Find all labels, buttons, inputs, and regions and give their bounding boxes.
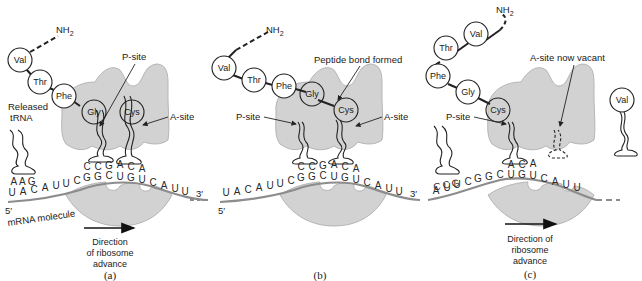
svg-text:U: U: [352, 174, 359, 185]
panel-b: UACA UUCG GCUG UCAU U CCG ACA NH2 Val Th…: [212, 24, 420, 281]
svg-text:U: U: [116, 171, 123, 182]
svg-text:U: U: [222, 187, 229, 198]
svg-text:G: G: [127, 172, 135, 183]
svg-text:A: A: [530, 158, 537, 169]
svg-text:G: G: [319, 160, 327, 171]
svg-text:U: U: [171, 183, 178, 194]
svg-text:A: A: [139, 163, 146, 174]
svg-text:Cys: Cys: [338, 105, 354, 115]
five-prime-label: 5′: [5, 205, 12, 216]
svg-text:C: C: [297, 161, 304, 172]
a-site-vacant-label: A-site now vacant: [530, 52, 605, 63]
svg-text:U: U: [62, 178, 69, 189]
panel-a: UACAUUCGGCUGUCAUU UACA UUCG GCUG UCAU U …: [5, 24, 208, 281]
svg-text:Val: Val: [616, 95, 628, 105]
svg-text:of ribosome: of ribosome: [86, 248, 133, 258]
svg-text:C: C: [308, 161, 315, 172]
svg-text:U: U: [573, 182, 580, 193]
svg-text:U: U: [8, 187, 15, 198]
svg-text:C: C: [540, 173, 547, 184]
svg-text:Gly: Gly: [87, 107, 101, 117]
svg-text:U: U: [266, 180, 273, 191]
svg-text:Cys: Cys: [490, 105, 506, 115]
peptide-bond-label: Peptide bond formed: [314, 54, 402, 65]
nh2-dashed-bond: [30, 36, 58, 52]
svg-text:C: C: [464, 176, 471, 187]
svg-text:Thr: Thr: [33, 77, 47, 87]
svg-text:3′: 3′: [410, 188, 417, 199]
svg-text:A: A: [20, 186, 27, 197]
svg-text:Phe: Phe: [430, 71, 446, 81]
anticodon-bases: CCG ACA: [83, 159, 145, 174]
ribosome-large-subunit: [62, 64, 169, 150]
svg-text:U: U: [138, 174, 145, 185]
svg-text:U: U: [395, 186, 402, 197]
svg-text:Val: Val: [14, 55, 26, 65]
svg-text:C: C: [127, 161, 134, 172]
svg-text:A: A: [353, 163, 360, 174]
svg-text:Cys: Cys: [124, 107, 140, 117]
svg-text:Thr: Thr: [247, 75, 261, 85]
p-site-label: P-site: [122, 51, 146, 62]
svg-text:NH2: NH2: [266, 24, 284, 37]
released-anticodon: AAG: [10, 176, 37, 187]
ribosome-translation-diagram: UACAUUCGGCUGUCAUU UACA UUCG GCUG UCAU U …: [0, 0, 642, 281]
svg-text:Val: Val: [218, 63, 230, 73]
svg-text:U: U: [52, 180, 59, 191]
svg-text:A: A: [552, 176, 559, 187]
svg-text:A: A: [234, 186, 241, 197]
svg-text:Phe: Phe: [56, 91, 72, 101]
released-anticodon: CCG: [433, 177, 463, 193]
svg-text:A: A: [42, 182, 49, 193]
svg-text:Direction: Direction: [92, 237, 128, 247]
svg-text:C: C: [83, 161, 90, 172]
svg-text:tRNA: tRNA: [10, 112, 33, 123]
nh2-label: NH2: [56, 24, 74, 37]
caption-c: (c): [524, 268, 537, 281]
released-trna: [10, 130, 35, 174]
p-site-label: P-site: [446, 111, 470, 122]
svg-text:C: C: [94, 161, 101, 172]
caption-a: (a): [104, 269, 117, 281]
released-trna: [434, 126, 459, 174]
svg-text:C: C: [73, 175, 80, 186]
svg-text:Direction of: Direction of: [507, 234, 553, 244]
svg-text:U: U: [276, 178, 283, 189]
svg-text:G: G: [308, 171, 316, 182]
svg-text:C: C: [149, 177, 156, 188]
svg-text:C: C: [105, 170, 112, 181]
svg-text:C: C: [287, 175, 294, 186]
svg-text:C: C: [244, 184, 251, 195]
svg-text:5′: 5′: [218, 205, 225, 216]
mrna-label: mRNA molecule: [7, 208, 76, 228]
svg-text:C: C: [363, 177, 370, 188]
p-site-label: P-site: [236, 111, 260, 122]
released-trna-label: Released: [8, 101, 48, 112]
svg-text:G: G: [297, 172, 305, 183]
svg-text:U: U: [529, 170, 536, 181]
svg-text:Val: Val: [470, 29, 482, 39]
svg-text:G: G: [341, 172, 349, 183]
svg-text:Gly: Gly: [461, 87, 475, 97]
svg-text:ribosome: ribosome: [511, 245, 548, 255]
svg-text:Phe: Phe: [276, 81, 292, 91]
svg-text:A: A: [161, 180, 168, 191]
a-site-label: A-site: [170, 111, 194, 122]
svg-text:G: G: [83, 172, 91, 183]
svg-text:C: C: [341, 161, 348, 172]
svg-text:U: U: [385, 183, 392, 194]
svg-text:NH2: NH2: [496, 4, 514, 17]
svg-text:C: C: [319, 170, 326, 181]
svg-text:A: A: [375, 180, 382, 191]
caption-b: (b): [314, 269, 327, 281]
svg-text:G: G: [518, 169, 526, 180]
svg-text:U: U: [181, 186, 188, 197]
svg-text:U: U: [507, 169, 514, 180]
svg-text:Gly: Gly: [305, 89, 319, 99]
svg-text:A: A: [256, 182, 263, 193]
svg-text:C: C: [496, 169, 503, 180]
svg-text:U: U: [330, 171, 337, 182]
panel-c: AUUC GGCU GUCA UU ACA CCG Val NH2 Val Th…: [426, 4, 637, 281]
svg-text:advance: advance: [93, 259, 127, 269]
three-prime-label: 3′: [196, 188, 203, 199]
